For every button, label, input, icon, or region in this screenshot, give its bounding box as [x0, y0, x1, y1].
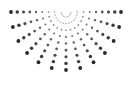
dot [89, 55, 92, 58]
dot [86, 49, 89, 52]
dot [62, 15, 63, 16]
dot [50, 66, 54, 70]
dot [64, 62, 67, 65]
dot [82, 16, 84, 18]
dot [80, 38, 82, 40]
dot [55, 47, 58, 50]
dot [61, 13, 62, 14]
dot [37, 60, 41, 64]
dot [41, 11, 43, 13]
dot [62, 23, 63, 24]
dot [75, 54, 78, 57]
dot [112, 39, 116, 43]
dot [71, 12, 72, 13]
dot [77, 33, 79, 35]
dot [64, 55, 67, 58]
dot [35, 11, 37, 13]
dot [76, 14, 77, 15]
dot [54, 14, 55, 15]
dot [66, 17, 67, 18]
dot [16, 39, 20, 43]
dot [57, 41, 59, 43]
dot [111, 24, 114, 27]
dot [65, 42, 67, 44]
dot [107, 10, 110, 13]
dot [48, 11, 50, 13]
dot [103, 51, 107, 55]
dot [119, 10, 123, 14]
dot [47, 44, 50, 47]
dot [96, 30, 99, 33]
dot [39, 38, 42, 41]
dot [60, 21, 61, 22]
dot [57, 20, 58, 21]
dot [34, 42, 37, 45]
dot [70, 29, 72, 31]
half-sunburst-dot-icon [0, 0, 132, 96]
dot [99, 47, 102, 50]
dot [80, 20, 82, 22]
dot [56, 27, 58, 29]
dot [40, 55, 43, 58]
dot [65, 29, 67, 31]
dot [91, 27, 93, 29]
dot [83, 44, 86, 47]
dot [11, 25, 15, 29]
dot [44, 33, 46, 35]
dot [68, 16, 69, 17]
dot [23, 22, 26, 25]
dot [61, 14, 62, 15]
dot [59, 35, 61, 37]
dot [56, 17, 57, 18]
dot [52, 60, 55, 63]
dot [95, 11, 97, 13]
dot [73, 41, 75, 43]
dot [101, 11, 104, 14]
dot [28, 33, 31, 36]
dot [17, 24, 20, 27]
dot [95, 42, 98, 45]
dot [22, 10, 25, 13]
dot [44, 23, 46, 25]
dot [67, 16, 68, 17]
dot [117, 25, 121, 29]
dot [78, 24, 80, 26]
dot [63, 16, 64, 17]
dot [92, 60, 96, 64]
dot [9, 10, 13, 14]
dot [61, 29, 63, 31]
dot [22, 36, 25, 39]
dot [28, 11, 31, 14]
dot [42, 17, 44, 19]
dot [70, 14, 71, 15]
dot [89, 11, 91, 13]
dot [65, 36, 67, 38]
dot [90, 38, 93, 41]
dot [71, 35, 73, 37]
dot [50, 20, 52, 22]
dot [113, 10, 116, 13]
dot [68, 23, 69, 24]
dot [61, 12, 62, 13]
dot [33, 30, 36, 33]
dot [74, 47, 77, 50]
dot [86, 23, 88, 25]
dot [54, 11, 55, 12]
dot [69, 15, 70, 16]
dot [64, 16, 65, 17]
dot [16, 10, 19, 13]
dot [106, 22, 109, 25]
dot [36, 19, 38, 21]
dot [39, 27, 41, 29]
dot [43, 49, 46, 52]
dot [73, 20, 74, 21]
dot [30, 20, 33, 23]
dot-rays-group [9, 10, 123, 72]
dot [101, 33, 104, 36]
dot [94, 19, 96, 21]
dot [78, 66, 82, 70]
dot [88, 17, 90, 19]
dot [77, 11, 78, 12]
dot [25, 51, 29, 55]
dot [48, 29, 50, 31]
